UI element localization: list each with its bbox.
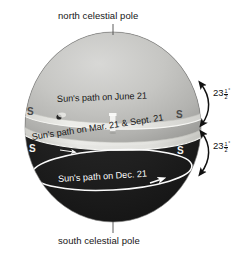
angle-upper-whole: 23 (213, 88, 224, 98)
angle-label-upper: 23 1 2 ° (213, 88, 230, 101)
angle-lower-degree-symbol: ° (228, 141, 230, 146)
angle-upper-denominator: 2 (224, 95, 227, 100)
s-marker-equinox-left: S (29, 144, 36, 154)
s-marker-june-right: S (176, 110, 183, 120)
angle-label-lower: 23 1 2 ° (213, 141, 230, 154)
s-marker-equinox-right: S (177, 146, 184, 156)
angle-lower-denominator: 2 (224, 148, 227, 153)
angle-upper-degree-symbol: ° (228, 88, 230, 93)
sun-position-highlight (58, 113, 66, 118)
south-celestial-pole-label: south celestial pole (58, 236, 140, 246)
north-celestial-pole-label: north celestial pole (58, 11, 138, 21)
s-marker-june-left: S (27, 107, 34, 117)
angle-arc-lower (201, 133, 209, 173)
angle-arc-upper (201, 84, 209, 124)
angle-lower-numerator: 1 (224, 142, 227, 147)
angle-upper-numerator: 1 (224, 89, 227, 94)
angle-lower-whole: 23 (213, 141, 224, 151)
celestial-sphere-diagram: north celestial pole south celestial pol… (0, 0, 243, 254)
